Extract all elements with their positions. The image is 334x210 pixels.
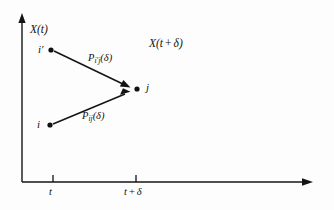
y-axis-arrowhead-icon	[18, 13, 25, 23]
transition-label-argument-1: (δ)	[93, 110, 105, 121]
state-label-j: j	[146, 82, 149, 93]
time-column-label-operator: +	[165, 37, 172, 49]
x-tick-label-delta: δ	[137, 186, 142, 197]
transition-arrowhead-i-prime-to-j	[120, 80, 131, 88]
x-tick-label-operator: +	[129, 186, 135, 197]
x-tick-label-base: t	[124, 186, 127, 197]
diagram-canvas	[0, 0, 334, 210]
transition-label-i-to-j: Pij(δ)	[82, 111, 105, 123]
transition-label-argument-0: (δ)	[100, 52, 112, 63]
state-transition-diagram: X(t) X(t+δ) i′ i j t t+δ Pi′j(δ) Pij(δ)	[0, 0, 334, 210]
transition-label-i-prime-to-j: Pi′j(δ)	[88, 53, 112, 65]
state-dot-i	[47, 122, 52, 127]
x-tick-label-t-plus-delta: t+δ	[124, 187, 142, 198]
state-label-i-prime-mark: ′	[41, 43, 43, 55]
time-column-label-t-plus-delta: X(t+δ)	[149, 38, 183, 50]
state-dot-i-prime	[48, 47, 53, 52]
state-dot-j	[134, 86, 139, 91]
state-label-i: i	[37, 119, 40, 130]
x-tick-label-t: t	[49, 187, 52, 198]
y-axis-label: X(t)	[30, 24, 48, 36]
time-column-label-delta: δ)	[174, 37, 183, 49]
time-column-label-main: X(t	[149, 37, 163, 49]
transition-arrowhead-i-to-j	[120, 88, 131, 95]
x-axis-arrowhead-icon	[302, 178, 313, 186]
state-label-i-prime: i′	[38, 44, 43, 55]
